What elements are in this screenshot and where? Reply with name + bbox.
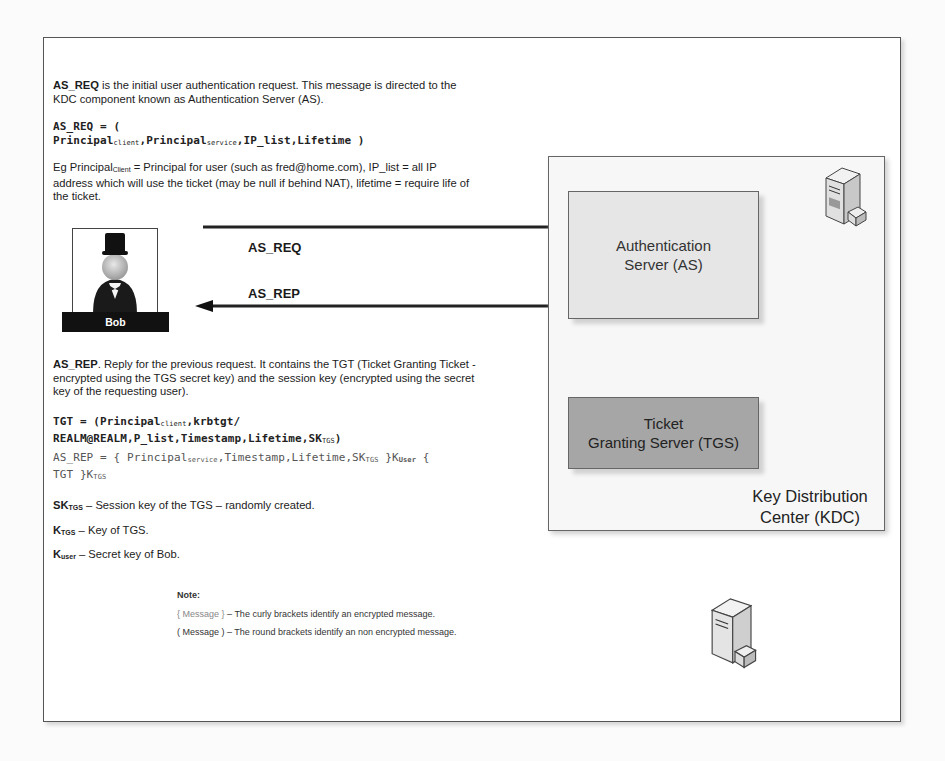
as-rep-term: AS_REP <box>53 358 98 370</box>
definition-k-user: Kuser – Secret key of Bob. <box>53 548 453 564</box>
note-title: Note: <box>177 590 497 601</box>
as-rep-arrow-label: AS_REP <box>248 286 300 301</box>
message-arrows <box>195 218 570 318</box>
as-rep-formula: AS_REP = { Principalservice,Timestamp,Li… <box>53 451 513 484</box>
definition-sk-tgs: SKTGS – Session key of the TGS – randoml… <box>53 499 453 515</box>
example-text: Eg PrincipalClient = Principal for user … <box>53 161 473 204</box>
ticket-granting-server-box: TicketGranting Server (TGS) <box>568 397 759 469</box>
note-item-encrypted: { Message } – The curly brackets identif… <box>177 609 497 620</box>
as-req-intro-text: is the initial user authentication reque… <box>53 79 456 105</box>
tgt-formula: TGT = (Principalclient,krbtgt/ REALM@REA… <box>53 415 503 448</box>
definitions-list: SKTGS – Session key of the TGS – randoml… <box>53 499 453 564</box>
authentication-server-box: AuthenticationServer (AS) <box>568 191 759 319</box>
note-item-non-encrypted: ( Message ) – The round brackets identif… <box>177 627 497 638</box>
as-req-formula: AS_REQ = ( Principalclient,Principalserv… <box>53 120 493 150</box>
definition-k-tgs: KTGS – Key of TGS. <box>53 524 453 540</box>
kdc-label: Key DistributionCenter (KDC) <box>735 486 885 528</box>
as-req-formula-line1: AS_REQ = ( <box>53 120 493 134</box>
server-icon <box>820 162 872 232</box>
user-name-label: Bob <box>62 312 169 332</box>
as-req-term: AS_REQ <box>53 79 99 91</box>
as-req-arrow-label: AS_REQ <box>248 240 301 255</box>
as-rep-description: AS_REP. Reply for the previous request. … <box>53 358 483 399</box>
server-icon-bottom <box>705 592 765 672</box>
user-avatar-frame <box>72 228 158 314</box>
as-req-formula-line2: Principalclient,Principalservice,IP_list… <box>53 134 493 151</box>
user-top-hat-icon <box>73 229 157 313</box>
arrow-left-head-icon <box>195 300 213 312</box>
note-section: Note: { Message } – The curly brackets i… <box>177 590 497 638</box>
as-req-intro: AS_REQ is the initial user authenticatio… <box>53 79 473 106</box>
